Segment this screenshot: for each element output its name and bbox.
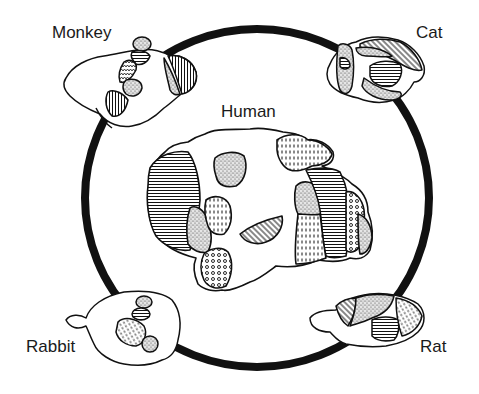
label-rabbit: Rabbit <box>26 338 75 355</box>
human-brain <box>147 128 372 290</box>
label-human: Human <box>221 103 276 120</box>
rabbit-brain <box>66 291 180 365</box>
diagram-canvas <box>0 0 479 394</box>
cat-brain <box>327 37 424 102</box>
label-rat: Rat <box>420 338 446 355</box>
label-cat: Cat <box>416 24 442 41</box>
comparative-brain-diagram: Human Monkey Cat Rabbit Rat <box>0 0 479 394</box>
label-monkey: Monkey <box>52 24 112 41</box>
rat-brain <box>310 293 424 346</box>
